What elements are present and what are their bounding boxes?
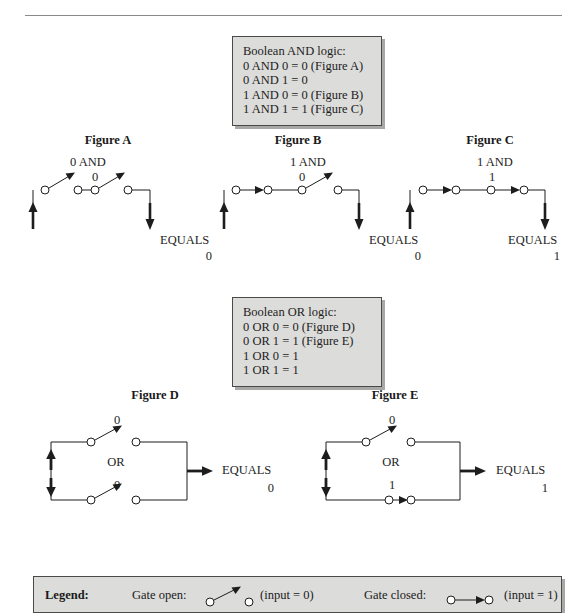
legend-gate-closed-label: Gate closed: [364,588,426,603]
figure-e-equals-label: EQUALS [496,463,545,478]
legend-box: Legend: Gate open: (input = 0) Gate clos… [33,576,562,613]
figure-e-top-gate-open [362,426,415,447]
figure-e-result: 1 [496,481,548,496]
gate-closed-icon [445,582,505,612]
figure-e-top-input-arrow [321,449,331,470]
legend-gate-open-value: (input = 0) [260,588,314,603]
legend-label: Legend: [45,588,89,603]
legend-gate-open-label: Gate open: [132,588,187,603]
page-canvas: Boolean AND logic: 0 AND 0 = 0 (Figure A… [0,0,587,613]
figure-e-output-arrow [460,466,486,476]
gate-open-icon [204,582,264,612]
legend-gate-closed-value: (input = 1) [504,588,558,603]
figure-e-circuit [0,0,587,530]
figure-e-bottom-gate-closed [385,496,415,504]
figure-e-bottom-input-arrow [321,478,331,497]
